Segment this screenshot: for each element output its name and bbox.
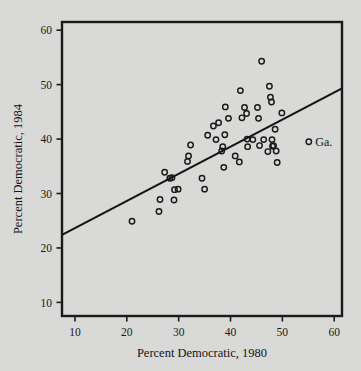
- y-tick-label: 30: [41, 188, 53, 200]
- data-point: [245, 144, 250, 149]
- data-points: [129, 59, 311, 224]
- data-point: [223, 104, 228, 109]
- data-point: [272, 127, 277, 132]
- data-point: [244, 111, 249, 116]
- data-point: [188, 142, 193, 147]
- data-point: [162, 170, 167, 175]
- x-tick-label: 60: [328, 326, 340, 338]
- y-tick-label: 20: [41, 242, 53, 254]
- x-tick-label: 10: [69, 326, 81, 338]
- data-point: [205, 133, 210, 138]
- data-point-label: Ga.: [315, 135, 332, 149]
- data-point: [256, 116, 261, 121]
- y-tick-label: 50: [41, 79, 53, 91]
- data-point: [157, 197, 162, 202]
- point-labels: Ga.: [315, 135, 332, 149]
- data-point: [306, 139, 311, 144]
- y-tick-label: 60: [41, 24, 53, 36]
- data-point: [255, 105, 260, 110]
- data-point: [222, 132, 227, 137]
- data-point: [199, 176, 204, 181]
- data-point: [186, 153, 191, 158]
- data-point: [232, 153, 237, 158]
- data-point: [216, 120, 221, 125]
- data-point: [171, 197, 176, 202]
- x-axis-label: Percent Democratic, 1980: [137, 346, 267, 360]
- data-point: [269, 137, 274, 142]
- x-tick-label: 20: [121, 326, 133, 338]
- data-point: [129, 219, 134, 224]
- x-tick-label: 40: [225, 326, 237, 338]
- x-axis-ticks: 102030405060: [69, 316, 340, 338]
- data-point: [279, 110, 284, 115]
- data-point: [257, 143, 262, 148]
- data-point: [239, 115, 244, 120]
- data-point: [202, 186, 207, 191]
- data-point: [156, 209, 161, 214]
- data-point: [242, 105, 247, 110]
- data-point: [238, 88, 243, 93]
- y-axis-label: Percent Democratic, 1984: [11, 103, 25, 234]
- data-point: [273, 148, 278, 153]
- x-tick-label: 30: [173, 326, 185, 338]
- chart-figure: 102030405060 102030405060 Ga. Percent De…: [0, 0, 361, 371]
- data-point: [259, 59, 264, 64]
- data-point: [274, 160, 279, 165]
- data-point: [250, 137, 255, 142]
- data-point: [237, 159, 242, 164]
- data-point: [261, 137, 266, 142]
- scatter-plot: 102030405060 102030405060 Ga. Percent De…: [0, 0, 361, 371]
- y-axis-ticks: 102030405060: [41, 24, 63, 308]
- data-point: [213, 137, 218, 142]
- data-point: [226, 116, 231, 121]
- x-tick-label: 50: [277, 326, 289, 338]
- data-point: [185, 159, 190, 164]
- y-tick-label: 10: [41, 297, 53, 309]
- data-point: [267, 84, 272, 89]
- plot-frame: [62, 22, 342, 316]
- data-point: [211, 123, 216, 128]
- data-point: [265, 149, 270, 154]
- data-point: [175, 186, 180, 191]
- y-tick-label: 40: [41, 133, 53, 145]
- data-point: [221, 165, 226, 170]
- regression-line: [62, 88, 342, 234]
